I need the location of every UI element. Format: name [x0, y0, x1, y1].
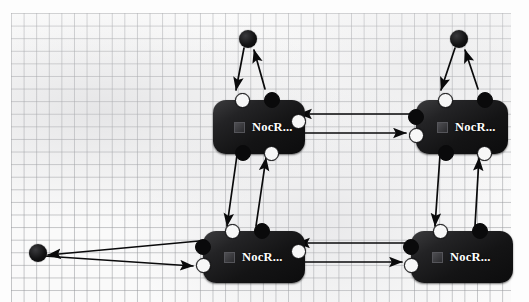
tr-port-top-left[interactable] — [438, 93, 453, 108]
tl-port-right[interactable] — [291, 114, 306, 129]
node-content: NocR... — [416, 120, 496, 135]
bl-port-right[interactable] — [291, 244, 306, 259]
square-badge-icon — [437, 122, 448, 133]
square-badge-icon — [432, 252, 443, 263]
node-label: NocR... — [450, 250, 491, 265]
endpoint-top-left[interactable] — [239, 30, 257, 48]
bl-port-left-upper[interactable] — [195, 239, 211, 255]
node-bottom-right[interactable]: NocR... — [411, 231, 513, 283]
graph-editor-canvas[interactable]: NocR...NocR...NocR...NocR... — [0, 0, 529, 302]
tr-port-left-lower[interactable] — [409, 128, 424, 143]
tl-port-top-left[interactable] — [235, 93, 250, 108]
br-port-top-right[interactable] — [472, 223, 488, 239]
tl-port-top-right[interactable] — [264, 92, 280, 108]
square-badge-icon — [224, 252, 235, 263]
br-port-top-left[interactable] — [433, 224, 448, 239]
endpoint-left[interactable] — [29, 244, 47, 262]
node-content: NocR... — [203, 250, 283, 265]
node-label: NocR... — [242, 250, 283, 265]
node-label: NocR... — [455, 120, 496, 135]
node-top-left[interactable]: NocR... — [213, 100, 305, 154]
endpoint-top-right[interactable] — [450, 30, 468, 48]
node-content: NocR... — [213, 120, 293, 135]
tr-port-bottom-left[interactable] — [438, 145, 454, 161]
tl-port-bottom-right[interactable] — [264, 146, 279, 161]
bl-port-top-right[interactable] — [254, 223, 270, 239]
node-label: NocR... — [252, 120, 293, 135]
tr-port-bottom-right[interactable] — [477, 146, 492, 161]
tr-port-top-right[interactable] — [477, 92, 493, 108]
tl-port-bottom-left[interactable] — [235, 145, 251, 161]
node-content: NocR... — [411, 250, 491, 265]
square-badge-icon — [234, 122, 245, 133]
tr-port-left-upper[interactable] — [408, 109, 424, 125]
node-top-right[interactable]: NocR... — [416, 100, 508, 154]
bl-port-top-left[interactable] — [225, 224, 240, 239]
node-bottom-left[interactable]: NocR... — [203, 231, 305, 283]
bl-port-left-lower[interactable] — [196, 258, 211, 273]
br-port-left-upper[interactable] — [403, 239, 419, 255]
br-port-left-lower[interactable] — [404, 258, 419, 273]
